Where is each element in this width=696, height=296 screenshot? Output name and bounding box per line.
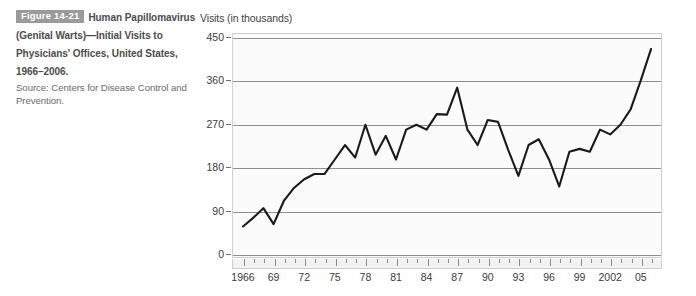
- y-tick-mark-180: [226, 167, 231, 168]
- x-tick-1984: [428, 259, 429, 266]
- x-tick-1992: [509, 259, 510, 263]
- y-tick-label-90: 90: [184, 205, 224, 217]
- y-tick-mark-360: [226, 80, 231, 81]
- x-tick-1986: [448, 259, 449, 263]
- x-tick-1996: [550, 259, 551, 266]
- x-tick-label-1981: 81: [390, 271, 402, 283]
- x-tick-1990: [489, 259, 490, 266]
- x-tick-1995: [540, 259, 541, 263]
- series-line-chart: [232, 33, 662, 258]
- x-tick-label-1987: 87: [451, 271, 463, 283]
- x-tick-1976: [346, 259, 347, 263]
- x-tick-label-2002: 2002: [599, 271, 622, 283]
- x-tick-2001: [601, 259, 602, 263]
- x-axis-ticks: [232, 259, 662, 269]
- x-tick-1999: [581, 259, 582, 266]
- x-tick-2004: [632, 259, 633, 263]
- x-tick-1988: [468, 259, 469, 263]
- y-tick-label-180: 180: [184, 161, 224, 173]
- x-tick-label-1975: 75: [329, 271, 341, 283]
- y-tick-mark-90: [226, 211, 231, 212]
- x-tick-1975: [336, 259, 337, 266]
- x-tick-label-1978: 78: [360, 271, 372, 283]
- x-tick-label-2005: 05: [635, 271, 647, 283]
- x-tick-1971: [295, 259, 296, 263]
- x-tick-label-1984: 84: [421, 271, 433, 283]
- y-tick-mark-450: [226, 37, 231, 38]
- x-tick-1970: [285, 259, 286, 263]
- x-tick-1983: [417, 259, 418, 263]
- x-tick-label-1966: 1966: [231, 271, 254, 283]
- x-tick-1966: [244, 259, 245, 266]
- x-tick-1974: [326, 259, 327, 263]
- x-tick-1994: [530, 259, 531, 263]
- y-tick-label-270: 270: [184, 118, 224, 130]
- figure-container: Figure 14-21Human Papillomavirus (Genita…: [0, 0, 696, 296]
- x-tick-1997: [560, 259, 561, 263]
- x-tick-label-1969: 69: [268, 271, 280, 283]
- series-polyline: [243, 49, 651, 226]
- x-tick-1978: [366, 259, 367, 266]
- x-tick-1993: [519, 259, 520, 266]
- x-tick-1980: [387, 259, 388, 263]
- x-tick-2003: [621, 259, 622, 263]
- x-tick-2000: [591, 259, 592, 263]
- x-tick-1985: [438, 259, 439, 263]
- x-tick-label-1972: 72: [298, 271, 310, 283]
- x-tick-1982: [407, 259, 408, 263]
- y-axis-title: Visits (in thousands): [200, 12, 292, 24]
- x-tick-label-1990: 90: [482, 271, 494, 283]
- x-tick-label-1996: 96: [543, 271, 555, 283]
- x-tick-2002: [611, 259, 612, 266]
- y-tick-label-360: 360: [184, 74, 224, 86]
- x-tick-1972: [305, 259, 306, 266]
- x-tick-1989: [479, 259, 480, 263]
- x-tick-1991: [499, 259, 500, 263]
- y-tick-mark-0: [226, 254, 231, 255]
- chart: Visits (in thousands) 090180270360450 19…: [0, 0, 696, 296]
- x-tick-1987: [458, 259, 459, 266]
- x-tick-1973: [315, 259, 316, 263]
- x-tick-1969: [275, 259, 276, 266]
- x-tick-2006: [652, 259, 653, 263]
- x-tick-label-1999: 99: [574, 271, 586, 283]
- x-tick-1967: [254, 259, 255, 263]
- x-tick-1979: [377, 259, 378, 263]
- x-tick-1977: [356, 259, 357, 263]
- y-tick-mark-270: [226, 124, 231, 125]
- x-tick-1981: [397, 259, 398, 266]
- x-tick-2005: [642, 259, 643, 266]
- y-tick-label-0: 0: [184, 248, 224, 260]
- x-tick-1968: [264, 259, 265, 263]
- x-tick-1998: [570, 259, 571, 263]
- y-tick-label-450: 450: [184, 31, 224, 43]
- x-tick-label-1993: 93: [513, 271, 525, 283]
